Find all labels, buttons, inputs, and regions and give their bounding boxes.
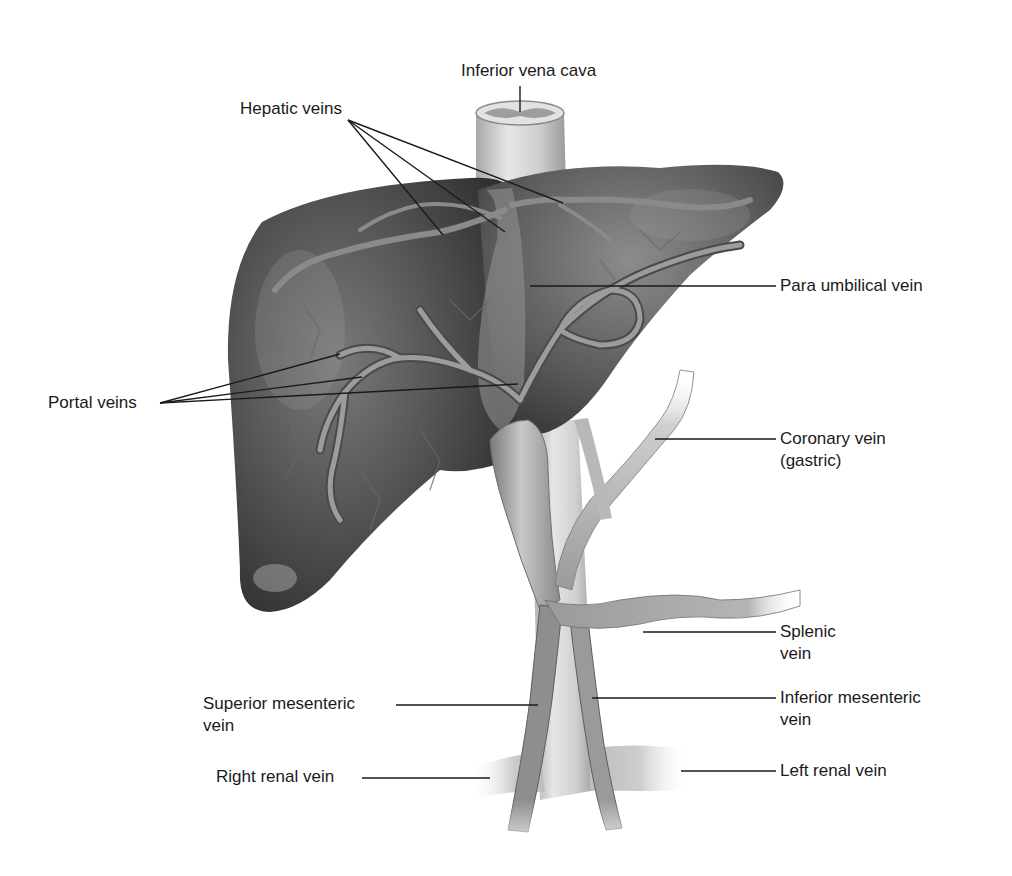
label-superior-mesenteric-vein: Superior mesenteric vein <box>203 693 355 737</box>
label-left-renal-vein: Left renal vein <box>780 760 887 782</box>
label-inferior-mesenteric-vein: Inferior mesenteric vein <box>780 687 921 731</box>
label-coronary-vein-line2: (gastric) <box>780 450 886 472</box>
label-hepatic-veins: Hepatic veins <box>240 98 342 120</box>
label-inferior-mesenteric-vein-line1: Inferior mesenteric <box>780 687 921 709</box>
label-portal-veins: Portal veins <box>48 392 137 414</box>
label-superior-mesenteric-vein-line1: Superior mesenteric <box>203 693 355 715</box>
label-coronary-vein: Coronary vein (gastric) <box>780 428 886 472</box>
label-inferior-vena-cava: Inferior vena cava <box>461 60 596 82</box>
label-para-umbilical-vein: Para umbilical vein <box>780 275 923 297</box>
label-splenic-vein-line1: Splenic <box>780 621 836 643</box>
label-coronary-vein-line1: Coronary vein <box>780 428 886 450</box>
label-right-renal-vein: Right renal vein <box>216 766 334 788</box>
label-splenic-vein: Splenic vein <box>780 621 836 665</box>
label-inferior-mesenteric-vein-line2: vein <box>780 709 921 731</box>
label-superior-mesenteric-vein-line2: vein <box>203 715 355 737</box>
label-splenic-vein-line2: vein <box>780 643 836 665</box>
